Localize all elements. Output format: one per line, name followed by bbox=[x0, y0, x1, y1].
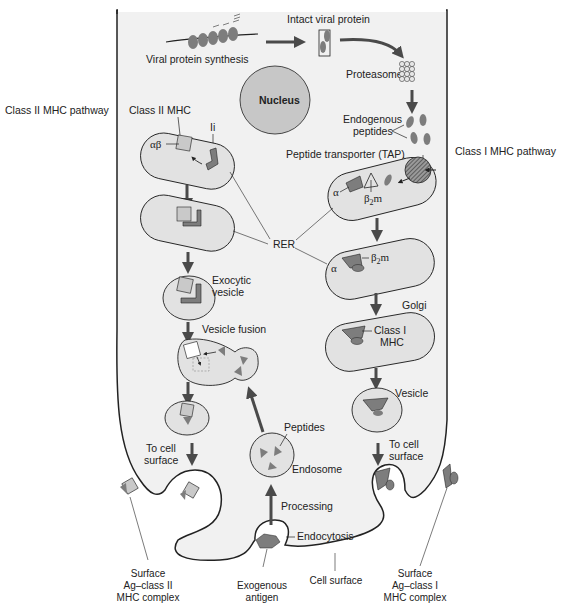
endogenous-label-2: peptides bbox=[353, 125, 393, 137]
endocytosis-label: Endocytosis bbox=[297, 530, 354, 542]
surface-class2-label-3: MHC complex bbox=[117, 592, 180, 603]
alpha-beta-label: αβ bbox=[150, 138, 162, 150]
surface-class1-label-2: Ag–class I bbox=[392, 580, 438, 591]
class2-to-cell-1: To cell bbox=[146, 442, 176, 454]
vesicle-fusion-label: Vesicle fusion bbox=[202, 323, 266, 335]
mhc-pathway-diagram: Class II MHC pathway Class I MHC pathway… bbox=[0, 0, 566, 607]
nucleus-label: Nucleus bbox=[259, 94, 300, 106]
golgi-label: Golgi bbox=[402, 299, 427, 311]
endosome bbox=[250, 433, 294, 477]
viral-synthesis-label: Viral protein synthesis bbox=[146, 53, 249, 65]
alpha-label-1: α bbox=[333, 186, 339, 198]
tap-label: Peptide transporter (TAP) bbox=[286, 148, 405, 160]
surface-class2-label-2: Ag–class II bbox=[124, 580, 173, 591]
exogenous-antigen-icon bbox=[256, 534, 280, 548]
exogenous-label-2: antigen bbox=[246, 592, 279, 603]
peptides-label: Peptides bbox=[284, 421, 325, 433]
surface-class1-label-1: Surface bbox=[398, 568, 433, 579]
class2-to-cell-2: surface bbox=[144, 454, 179, 466]
class2-ab-icon bbox=[176, 135, 192, 151]
proteasome-icon bbox=[399, 61, 414, 81]
class1-to-cell-2: surface bbox=[389, 450, 424, 462]
endogenous-label-1: Endogenous bbox=[343, 113, 402, 125]
class1-to-cell-1: To cell bbox=[389, 438, 419, 450]
exocytic-label-2: vesicle bbox=[212, 286, 244, 298]
class1-mhc-label-1: Class I bbox=[374, 324, 406, 336]
intact-viral-protein-label: Intact viral protein bbox=[287, 13, 370, 25]
alpha-label-2: α bbox=[331, 262, 337, 274]
surface-class2-label-1: Surface bbox=[131, 568, 166, 579]
exogenous-label-1: Exogenous bbox=[237, 580, 287, 591]
class1-mhc-label-2: MHC bbox=[380, 336, 404, 348]
endosome-label: Endosome bbox=[292, 463, 342, 475]
processing-label: Processing bbox=[281, 500, 333, 512]
exocytic-label-1: Exocytic bbox=[212, 274, 251, 286]
proteasome-label: Proteasome bbox=[346, 68, 403, 80]
ii-label: Ii bbox=[210, 121, 215, 133]
surface-class1-label-3: MHC complex bbox=[384, 592, 447, 603]
class2-pathway-label: Class II MHC pathway bbox=[5, 104, 110, 116]
class1-pathway-label: Class I MHC pathway bbox=[455, 145, 557, 157]
rer-label: RER bbox=[273, 238, 296, 250]
class2-mhc-label: Class II MHC bbox=[129, 104, 191, 116]
vesicle-label: Vesicle bbox=[395, 387, 428, 399]
cell-surface-label: Cell surface bbox=[310, 575, 363, 586]
